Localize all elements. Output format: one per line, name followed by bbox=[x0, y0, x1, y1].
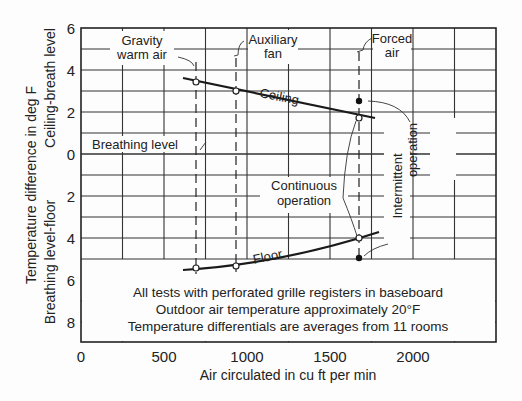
svg-text:2: 2 bbox=[67, 188, 75, 205]
label-gravity-1: Gravity bbox=[121, 33, 163, 48]
svg-text:6: 6 bbox=[67, 272, 75, 289]
label-aux-1: Auxiliary bbox=[248, 32, 298, 47]
note-3: Temperature differentials are averages f… bbox=[128, 319, 449, 334]
note-1: All tests with perforated grille registe… bbox=[133, 285, 443, 300]
label-breathing-level: Breathing level bbox=[92, 137, 178, 152]
svg-text:4: 4 bbox=[67, 230, 75, 247]
y-axis-upper-title: Ceiling-breath level bbox=[42, 28, 58, 148]
y-axis-lower-title: Breathing level-floor bbox=[42, 199, 58, 324]
label-continuous-1: Continuous bbox=[271, 178, 337, 193]
svg-text:6: 6 bbox=[67, 20, 75, 37]
label-intermittent-2: operation bbox=[405, 123, 420, 177]
svg-text:0: 0 bbox=[67, 146, 75, 163]
svg-text:500: 500 bbox=[151, 348, 176, 365]
label-forced-1: Forced bbox=[372, 31, 412, 46]
gravity-leader bbox=[178, 57, 194, 66]
forced-leader bbox=[357, 38, 372, 52]
svg-text:2: 2 bbox=[67, 104, 75, 121]
label-continuous-2: operation bbox=[277, 193, 331, 208]
label-ceiling: Ceiling bbox=[258, 85, 300, 107]
svg-text:1500: 1500 bbox=[313, 348, 346, 365]
chart: Gravity warm air Auxiliary fan Forced ai… bbox=[0, 0, 522, 401]
svg-text:1000: 1000 bbox=[230, 348, 263, 365]
label-intermittent-1: Intermittent bbox=[390, 153, 405, 218]
y-axis-title: Temperature difference in deg F bbox=[23, 86, 39, 284]
label-aux-2: fan bbox=[264, 46, 282, 61]
y-ticks: 6 4 2 0 2 4 6 8 bbox=[67, 20, 75, 331]
svg-text:4: 4 bbox=[67, 62, 75, 79]
x-ticks: 0 500 1000 1500 2000 bbox=[77, 348, 430, 365]
label-gravity-2: warm air bbox=[116, 47, 168, 62]
svg-text:2000: 2000 bbox=[396, 348, 429, 365]
svg-text:0: 0 bbox=[77, 348, 85, 365]
x-axis-title: Air circulated in cu ft per min bbox=[200, 367, 377, 383]
label-forced-2: air bbox=[385, 45, 400, 60]
svg-text:8: 8 bbox=[67, 314, 75, 331]
note-2: Outdoor air temperature approximately 20… bbox=[156, 302, 420, 317]
